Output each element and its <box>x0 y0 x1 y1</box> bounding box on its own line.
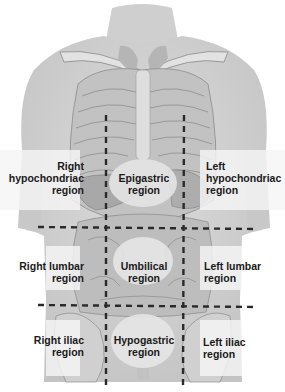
label-line: hypochondriac <box>4 172 84 184</box>
label-line: region <box>203 348 283 360</box>
right-lumbar-label: Right lumbar region <box>4 260 84 284</box>
label-line: Left <box>206 160 285 172</box>
label-line: Right lumbar <box>4 260 84 272</box>
label-line: region <box>4 346 84 358</box>
hypogastric-label: Hypogastric region <box>108 334 180 358</box>
right-hypochondriac-label: Right hypochondriac region <box>4 160 84 196</box>
umbilical-label: Umbilical region <box>110 260 178 284</box>
label-line: Left iliac <box>203 336 283 348</box>
label-line: Epigastric <box>110 172 178 184</box>
label-line: Right iliac <box>4 334 84 346</box>
abdominal-regions-diagram: Right hypochondriac region Epigastric re… <box>0 0 285 392</box>
right-iliac-label: Right iliac region <box>4 334 84 358</box>
label-line: Right <box>4 160 84 172</box>
label-line: Umbilical <box>110 260 178 272</box>
label-line: region <box>206 184 285 196</box>
label-line: Left lumbar <box>204 260 284 272</box>
label-line: hypochondriac <box>206 172 285 184</box>
lower-horizontal-divider <box>38 305 256 307</box>
epigastric-label: Epigastric region <box>110 172 178 196</box>
left-lumbar-label: Left lumbar region <box>204 260 284 284</box>
left-iliac-label: Left iliac region <box>203 336 283 360</box>
label-line: region <box>4 184 84 196</box>
label-line: region <box>110 272 178 284</box>
left-hypochondriac-label: Left hypochondriac region <box>206 160 285 196</box>
label-line: region <box>204 272 284 284</box>
right-vertical-divider <box>183 115 184 386</box>
label-line: Hypogastric <box>108 334 180 346</box>
label-line: region <box>110 184 178 196</box>
label-line: region <box>108 346 180 358</box>
label-line: region <box>4 272 84 284</box>
upper-horizontal-divider <box>38 227 256 229</box>
